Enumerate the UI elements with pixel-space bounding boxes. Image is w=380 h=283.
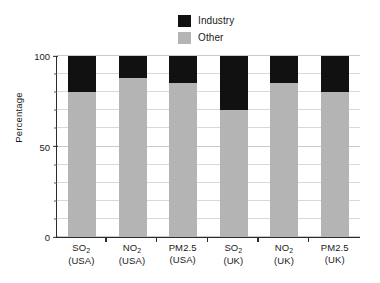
stacked-bar[interactable] — [119, 56, 147, 237]
bar-segment-industry[interactable] — [169, 56, 197, 83]
x-axis-label-subscript: 2 — [137, 247, 141, 254]
x-axis-label: PM2.5(USA) — [157, 242, 208, 266]
x-axis-label-line1: NO2 — [259, 242, 310, 255]
x-axis-label-line2: (UK) — [259, 255, 310, 267]
x-axis-label: SO2(UK) — [208, 242, 259, 266]
legend-label-industry: Industry — [198, 16, 234, 26]
x-axis-label-line2: (USA) — [107, 255, 158, 267]
x-axis-label-line2: (USA) — [56, 255, 107, 267]
x-axis-label: PM2.5(UK) — [309, 242, 360, 266]
x-axis-label-line2: (UK) — [208, 255, 259, 267]
x-axis-label-line1: PM2.5 — [309, 242, 360, 254]
x-axis-labels: SO2(USA)NO2(USA)PM2.5(USA)SO2(UK)NO2(UK)… — [56, 242, 360, 266]
stacked-bar[interactable] — [169, 56, 197, 237]
bar-segment-other[interactable] — [270, 83, 298, 237]
y-axis-tick-label: 50 — [39, 141, 57, 152]
x-axis-label-subscript: 2 — [238, 247, 242, 254]
bar-segment-other[interactable] — [220, 110, 248, 237]
bar-segment-other[interactable] — [321, 92, 349, 237]
bar-slot — [57, 56, 108, 237]
bar-slot — [310, 56, 361, 237]
bar-segment-industry[interactable] — [68, 56, 96, 92]
stacked-bar[interactable] — [270, 56, 298, 237]
stacked-bar[interactable] — [220, 56, 248, 237]
bar-slot — [158, 56, 209, 237]
x-axis-label-line1: SO2 — [56, 242, 107, 255]
bar-slot — [209, 56, 260, 237]
x-axis-label: SO2(USA) — [56, 242, 107, 266]
chart-legend: Industry Other — [178, 13, 234, 47]
bar-slot — [259, 56, 310, 237]
legend-swatch-industry — [178, 15, 191, 27]
x-axis-label: NO2(USA) — [107, 242, 158, 266]
bar-segment-industry[interactable] — [220, 56, 248, 110]
bar-segment-industry[interactable] — [119, 56, 147, 78]
bar-segment-other[interactable] — [169, 83, 197, 237]
bar-segment-industry[interactable] — [321, 56, 349, 92]
plot-area: 050100 — [56, 56, 360, 238]
bar-segment-other[interactable] — [68, 92, 96, 237]
stacked-bar-chart: Industry Other Percentage 050100 SO2(USA… — [0, 0, 380, 283]
stacked-bar[interactable] — [321, 56, 349, 237]
x-axis-label-subscript: 2 — [289, 247, 293, 254]
x-axis-label-subscript: 2 — [86, 247, 90, 254]
stacked-bar[interactable] — [68, 56, 96, 237]
legend-item-industry: Industry — [178, 13, 234, 28]
y-axis-tick-label: 100 — [34, 51, 57, 62]
y-axis-title: Percentage — [13, 78, 24, 158]
bar-group — [57, 56, 360, 237]
legend-item-other: Other — [178, 30, 234, 45]
bar-slot — [108, 56, 159, 237]
x-axis-label-line1: PM2.5 — [157, 242, 208, 254]
legend-swatch-other — [178, 32, 191, 44]
x-axis-label-line1: NO2 — [107, 242, 158, 255]
x-axis-label-line2: (UK) — [309, 254, 360, 266]
x-axis-label-line1: SO2 — [208, 242, 259, 255]
bar-segment-other[interactable] — [119, 78, 147, 237]
bar-segment-industry[interactable] — [270, 56, 298, 83]
x-axis-label: NO2(UK) — [259, 242, 310, 266]
legend-label-other: Other — [198, 33, 224, 43]
x-axis-label-line2: (USA) — [157, 254, 208, 266]
